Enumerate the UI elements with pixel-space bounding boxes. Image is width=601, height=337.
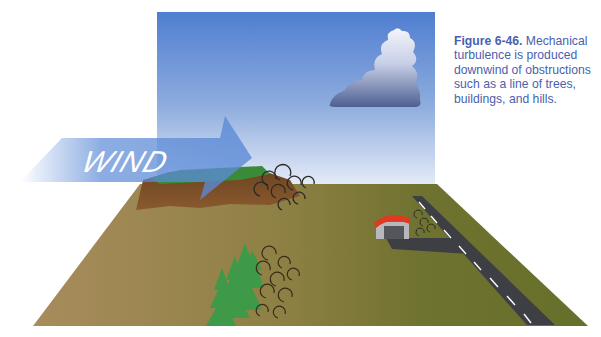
ground-plane: [33, 184, 588, 326]
wind-label: WIND: [77, 145, 173, 179]
figure-number: Figure 6-46.: [454, 34, 522, 48]
figure-caption: Figure 6-46. Mechanical turbulence is pr…: [454, 34, 600, 106]
